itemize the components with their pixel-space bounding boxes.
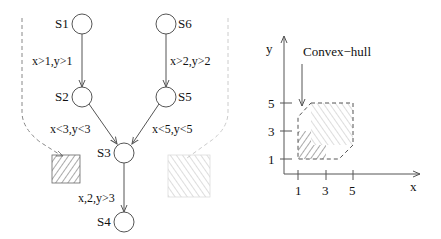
state-label-s1: S1: [55, 17, 69, 30]
edge-label-s6-s5: x>2,y>2: [170, 55, 211, 67]
x-tick-5: 5: [349, 184, 356, 197]
state-node-s2: [72, 87, 92, 107]
dark-hatched-square: [52, 155, 80, 183]
x-tick-3: 3: [322, 184, 329, 197]
edge-s2-s3: [89, 104, 117, 144]
x-axis-label: x: [410, 180, 417, 193]
state-label-s4: S4: [97, 215, 111, 228]
diagram-canvas: S1 S6 S2 S5 S3 S4 x>1,y>1 x>2,y>2 x<3,y<…: [0, 0, 441, 239]
y-axis-label: y: [266, 42, 273, 55]
edge-label-s1-s2: x>1,y>1: [32, 55, 73, 67]
region-outline-right: [187, 18, 228, 158]
state-label-s2: S2: [55, 90, 69, 103]
state-node-s6: [156, 14, 176, 34]
state-node-s1: [72, 14, 92, 34]
edge-label-s2-s3: x<3,y<3: [50, 123, 91, 135]
convex-hull-label: Convex−hull: [303, 45, 371, 58]
light-hatched-square: [168, 155, 210, 197]
state-node-s4: [114, 212, 134, 232]
state-label-s3: S3: [97, 146, 111, 159]
state-label-s6: S6: [178, 17, 192, 30]
state-node-s3: [114, 143, 134, 163]
edge-label-s3-s4: x,2,y>3: [78, 192, 115, 204]
edge-label-s5-s3: x<5,y<5: [152, 123, 193, 135]
x-tick-1: 1: [295, 184, 302, 197]
light-hatched-region: [311, 103, 353, 145]
y-tick-3: 3: [268, 125, 275, 138]
state-label-s5: S5: [178, 90, 192, 103]
state-node-s5: [156, 87, 176, 107]
diagram-graphics: [0, 0, 441, 239]
y-tick-1: 1: [268, 153, 275, 166]
y-tick-5: 5: [268, 97, 275, 110]
